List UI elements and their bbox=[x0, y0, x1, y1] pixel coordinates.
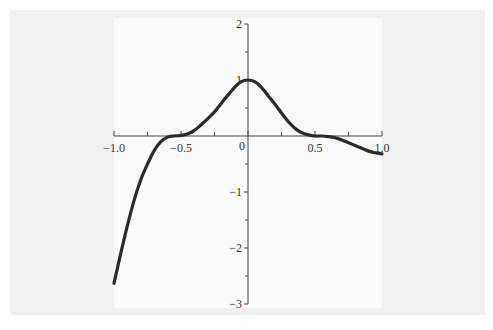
y-tick-label: −1 bbox=[229, 185, 242, 199]
scanned-figure: −1.0−0.500.51.0 21−1−2−3 bbox=[0, 0, 493, 330]
y-tick-label: −3 bbox=[229, 297, 242, 311]
x-tick-label: −0.5 bbox=[170, 141, 192, 155]
x-tick-label: 0 bbox=[239, 139, 245, 153]
y-ticks: 21−1−2−3 bbox=[229, 17, 248, 311]
x-tick-label: −1.0 bbox=[103, 141, 125, 155]
y-tick-label: −2 bbox=[229, 241, 242, 255]
x-tick-label: 0.5 bbox=[308, 141, 323, 155]
y-tick-label: 2 bbox=[236, 17, 242, 31]
chart: −1.0−0.500.51.0 21−1−2−3 bbox=[0, 0, 493, 330]
